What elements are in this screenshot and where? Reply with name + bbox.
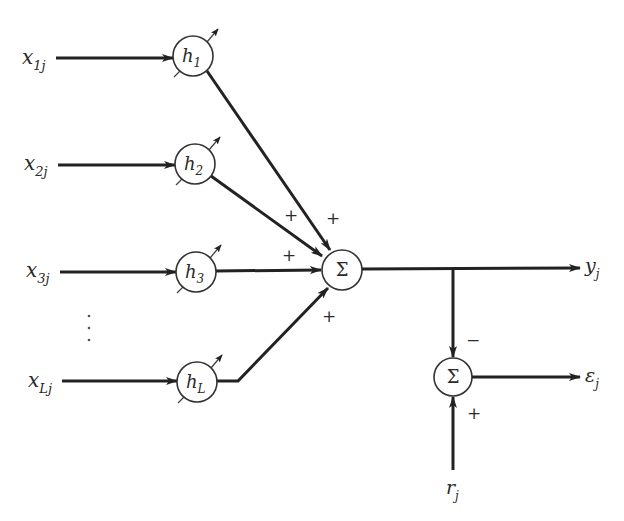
h3-to-sum-line <box>216 270 321 271</box>
plus-sign: + <box>322 306 336 326</box>
svg-text:yj: yj <box>584 254 600 281</box>
plus-sign: + <box>467 403 481 423</box>
weight-h1: h1 <box>173 29 218 77</box>
input-label-x1j: x1j <box>22 45 46 73</box>
adjust-tail-icon <box>176 179 182 185</box>
output-label-epsilon-j: εj <box>585 364 599 391</box>
adjust-arrow-icon <box>210 245 221 258</box>
svg-text:x2j: x2j <box>24 151 48 179</box>
adjust-tail-icon <box>177 287 183 293</box>
plus-sign: + <box>284 205 298 225</box>
ellipsis-dots <box>88 315 91 342</box>
adjust-tail-icon <box>174 71 180 77</box>
output-label-yj: yj <box>584 254 600 281</box>
adaptive-combiner-diagram: x1j x2j x3j xLj h1 h2 h3 <box>0 0 624 521</box>
svg-text:rj: rj <box>446 476 459 503</box>
svg-text:x3j: x3j <box>26 258 50 286</box>
plus-sign: + <box>282 245 296 265</box>
plus-sign: + <box>326 208 340 228</box>
hL-to-sum-line <box>217 288 328 381</box>
svg-text:Σ: Σ <box>336 259 349 280</box>
h1-to-sum-line <box>207 71 330 250</box>
adjust-arrow-icon <box>211 355 222 368</box>
adjust-arrow-icon <box>209 137 220 150</box>
adjust-tail-icon <box>178 397 184 403</box>
svg-text:Σ: Σ <box>447 366 460 387</box>
svg-text:x1j: x1j <box>22 45 46 73</box>
weight-h3: h3 <box>176 245 221 293</box>
weight-hL: hL <box>177 355 222 403</box>
input-label-x2j: x2j <box>24 151 48 179</box>
output-y-arrow <box>362 268 580 269</box>
summer-error: Σ <box>434 358 472 396</box>
svg-text:xLj: xLj <box>28 368 52 396</box>
adjust-arrow-icon <box>207 29 218 42</box>
input-label-x3j: x3j <box>26 258 50 286</box>
reference-label-rj: rj <box>446 476 459 503</box>
input-label-xLj: xLj <box>28 368 52 396</box>
svg-text:εj: εj <box>585 364 599 391</box>
minus-sign: − <box>466 330 480 350</box>
summer-main: Σ <box>322 250 362 290</box>
